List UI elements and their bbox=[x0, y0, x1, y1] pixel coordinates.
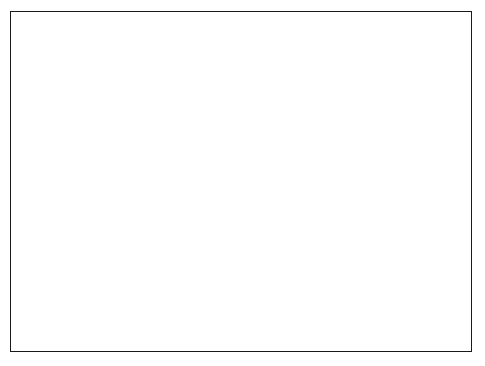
figure-root: TaushimaJapan SeaTottoriTangoShikokuKyus… bbox=[0, 0, 485, 366]
figure-border bbox=[10, 11, 472, 352]
